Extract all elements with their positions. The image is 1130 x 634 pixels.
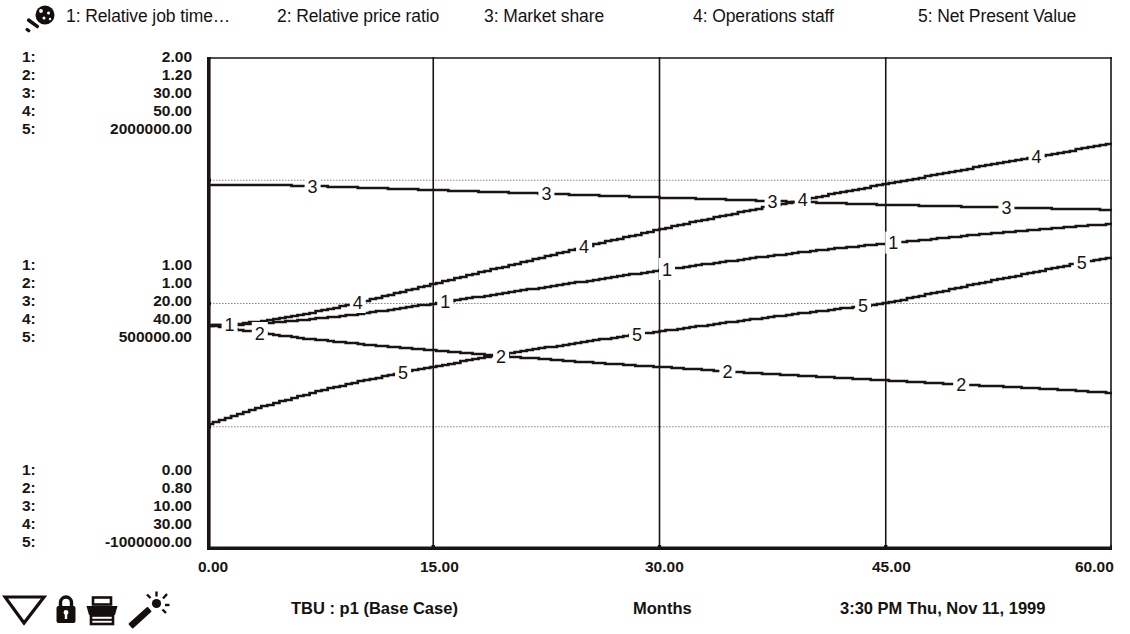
series-4-label-0: 4 [353,293,363,313]
x-axis-tick-30: 30.00 [645,558,684,576]
y-axis-mid-key-2: 2: [22,274,36,292]
y-axis-mid-row-4: 4: 40.00 [0,310,196,328]
y-axis-bot-key-2: 2: [22,479,36,497]
y-axis-mid-key-5: 5: [22,328,36,346]
chart-plot-area[interactable]: 11112222333344445555 [207,57,1112,550]
y-axis-bot-key-4: 4: [22,515,36,533]
gridlines [207,57,1112,550]
y-axis-mid-key-4: 4: [22,310,36,328]
y-axis-top-value-4: 50.00 [153,102,192,120]
legend-item-3[interactable]: 3: Market share [484,6,604,27]
y-axis-top-key-5: 5: [22,120,36,138]
legend-item-1-number: 1: [66,6,80,26]
legend-item-3-label: Market share [503,6,604,26]
y-axis-bot-row-5: 5: -1000000.00 [0,533,196,551]
series-2-label-3: 2 [956,375,966,395]
magnifier-icon[interactable] [20,4,60,38]
magic-wand-icon[interactable] [126,590,170,630]
series-4-label-2: 4 [798,190,808,210]
y-axis-top-value-5: 2000000.00 [110,120,192,138]
legend-item-4[interactable]: 4: Operations staff [693,6,834,27]
y-axis-mid-value-2: 1.00 [162,274,192,292]
y-axis-mid-row-3: 3: 20.00 [0,292,196,310]
y-axis-top-value-3: 30.00 [153,84,192,102]
model-run-label: TBU : p1 (Base Case) [291,599,458,618]
y-axis-top-row-5: 5: 2000000.00 [0,120,196,138]
x-axis-label: Months [633,599,692,618]
series-1-label-0: 1 [225,315,235,335]
y-axis-mid-value-1: 1.00 [162,256,192,274]
y-axis-bot-row-3: 3: 10.00 [0,497,196,515]
legend-item-4-number: 4: [693,6,707,26]
legend-item-1[interactable]: 1: Relative job time… [66,6,230,27]
series-4-label-1: 4 [579,237,589,257]
x-axis-tick-60: 60.00 [1075,558,1114,576]
legend-item-5-label: Net Present Value [937,6,1076,26]
series-2-label-2: 2 [722,362,732,382]
y-axis-bot-row-4: 4: 30.00 [0,515,196,533]
chart-canvas: 11112222333344445555 [207,57,1112,550]
zoom-out-icon[interactable] [2,592,48,626]
y-axis-bot-value-2: 0.80 [162,479,192,497]
legend-bar: 1: Relative job time… 2: Relative price … [0,0,1130,44]
series-3-label-0: 3 [308,177,318,197]
lock-icon[interactable] [54,593,78,627]
series-2-label-1: 2 [496,347,506,367]
series-1-label-2: 1 [662,260,672,280]
y-axis-bot-key-1: 1: [22,461,36,479]
y-axis-mid-row-2: 2: 1.00 [0,274,196,292]
legend-item-1-label: Relative job time… [85,6,230,26]
y-axis-mid-key-1: 1: [22,256,36,274]
y-axis-mid-key-3: 3: [22,292,36,310]
legend-item-4-label: Operations staff [712,6,834,26]
y-axis-top-key-3: 3: [22,84,36,102]
y-axis-mid-row-1: 1: 1.00 [0,256,196,274]
y-axis-top-value-1: 2.00 [162,48,192,66]
series-5-label-3: 5 [1077,253,1087,273]
y-axis-top-key-4: 4: [22,102,36,120]
x-axis-tick-15: 15.00 [420,558,459,576]
y-axis-scale-top: 1: 2.00 2: 1.20 3: 30.00 4: 50.00 5: 200… [0,48,196,138]
x-axis-tick-0: 0.00 [198,558,228,576]
legend-item-2-number: 2: [277,6,291,26]
series-5-label-2: 5 [858,296,868,316]
y-axis-top-key-2: 2: [22,66,36,84]
print-icon[interactable] [84,595,120,627]
y-axis-top-value-2: 1.20 [162,66,192,84]
y-axis-top-key-1: 1: [22,48,36,66]
footer-bar: TBU : p1 (Base Case) Months 3:30 PM Thu,… [0,592,1130,634]
legend-item-2[interactable]: 2: Relative price ratio [277,6,439,27]
y-axis-mid-value-3: 20.00 [153,292,192,310]
x-axis-tick-45: 45.00 [872,558,911,576]
y-axis-bot-key-5: 5: [22,533,36,551]
y-axis-mid-row-5: 5: 500000.00 [0,328,196,346]
legend-item-5-number: 5: [918,6,932,26]
y-axis-mid-value-5: 500000.00 [119,328,192,346]
y-axis-bot-key-3: 3: [22,497,36,515]
y-axis-bot-row-1: 1: 0.00 [0,461,196,479]
series-1-label-1: 1 [440,292,450,312]
series-4-label-3: 4 [1032,147,1042,167]
legend-item-5[interactable]: 5: Net Present Value [918,6,1076,27]
series-5-label-1: 5 [632,325,642,345]
y-axis-top-row-1: 1: 2.00 [0,48,196,66]
y-axis-scale-middle: 1: 1.00 2: 1.00 3: 20.00 4: 40.00 5: 500… [0,256,196,346]
timestamp-label: 3:30 PM Thu, Nov 11, 1999 [840,599,1045,618]
y-axis-bot-value-5: -1000000.00 [105,533,192,551]
y-axis-scale-bottom: 1: 0.00 2: 0.80 3: 10.00 4: 30.00 5: -10… [0,461,196,551]
y-axis-top-row-4: 4: 50.00 [0,102,196,120]
legend-item-2-label: Relative price ratio [296,6,439,26]
y-axis-top-row-2: 2: 1.20 [0,66,196,84]
series-5-label-0: 5 [398,363,408,383]
series-3-label-2: 3 [768,192,778,212]
series-2-label-0: 2 [255,324,265,344]
y-axis-bot-row-2: 2: 0.80 [0,479,196,497]
series-1-label-3: 1 [888,233,898,253]
series-3-label-3: 3 [1001,198,1011,218]
y-axis-mid-value-4: 40.00 [153,310,192,328]
y-axis-top-row-3: 3: 30.00 [0,84,196,102]
series-3-label-1: 3 [541,184,551,204]
y-axis-bot-value-4: 30.00 [153,515,192,533]
y-axis-bot-value-1: 0.00 [162,461,192,479]
y-axis-bot-value-3: 10.00 [153,497,192,515]
